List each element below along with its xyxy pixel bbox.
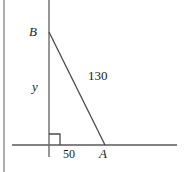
- hypotenuse-line: [49, 32, 105, 145]
- right-angle-marker: [49, 134, 60, 145]
- side-label-y: y: [32, 80, 38, 93]
- vertex-label-b: B: [29, 25, 37, 38]
- figure-container: B y 130 50 A: [0, 0, 187, 172]
- side-label-hypotenuse: 130: [88, 69, 108, 82]
- side-label-base: 50: [63, 148, 75, 160]
- vertex-label-a: A: [99, 147, 107, 160]
